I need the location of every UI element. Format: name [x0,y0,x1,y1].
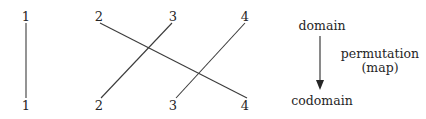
wire-4-to-3 [176,23,245,98]
domain-node-2: 2 [90,10,108,23]
codomain-annotation-label: codomain [291,94,352,108]
codomain-node-1: 1 [17,99,35,112]
domain-node-1: 1 [17,10,35,23]
codomain-node-3: 3 [164,99,182,112]
domain-node-4: 4 [236,10,254,23]
domain-annotation-label: domain [299,19,346,33]
permutation-arrow-head-icon [316,80,324,90]
wire-3-to-2 [101,23,172,98]
permutation-diagram-figure: 1 2 3 4 1 2 3 4 domain codomain permutat… [0,0,426,119]
permutation-caption-line-2: (map) [341,61,419,75]
codomain-node-4: 4 [236,99,254,112]
permutation-caption-line-1: permutation [341,46,419,61]
codomain-node-2: 2 [90,99,108,112]
permutation-map-caption: permutation (map) [341,47,419,75]
wire-2-to-4 [100,23,247,98]
permutation-arrow [316,36,324,90]
domain-node-3: 3 [164,10,182,23]
